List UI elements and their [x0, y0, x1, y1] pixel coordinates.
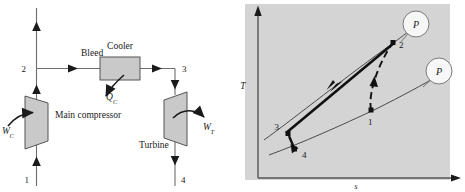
arrowhead-inlet-1 [32, 157, 41, 167]
ts-state-label-1: 1 [368, 117, 373, 127]
y-axis-label: T [240, 81, 246, 91]
figure-screenshot: 2 Bleed Cooler 3 Main compressor Turbine… [0, 0, 465, 192]
marker-point-4 [292, 147, 297, 152]
cooler-heat-subscript: C [113, 98, 118, 105]
state-label-3: 3 [182, 64, 187, 74]
turbine-shape [164, 92, 187, 146]
x-axis-label: s [355, 182, 358, 191]
ts-state-label-3: 3 [275, 122, 280, 132]
x-axis-arrowhead [451, 174, 461, 181]
state-label-4: 4 [181, 175, 186, 185]
arrowhead-compressor-exit [32, 85, 41, 95]
ts-state-label-4: 4 [302, 150, 307, 160]
bleed-label: Bleed [81, 48, 103, 58]
marker-point-2 [391, 40, 396, 45]
state-label-2: 2 [22, 64, 27, 74]
ts-state-label-2: 2 [399, 40, 404, 50]
cooler-label: Cooler [107, 41, 134, 51]
arrowhead-bleed [68, 64, 78, 72]
turbine-label: Turbine [139, 140, 169, 150]
arrowhead-cooler-exit [152, 64, 162, 72]
main-compressor-label: Main compressor [55, 110, 122, 120]
state-label-1: 1 [25, 175, 30, 185]
cycle-schematic-panel: 2 Bleed Cooler 3 Main compressor Turbine… [0, 0, 232, 192]
turbine-work-subscript: T [211, 128, 215, 135]
compressor-work-subscript: C [10, 132, 15, 139]
marker-point-3 [286, 131, 291, 136]
arrowhead-turbine-inlet [171, 80, 180, 90]
arrowhead-outlet-4 [171, 156, 180, 166]
cooler-shape [100, 57, 140, 80]
schematic-svg: 2 Bleed Cooler 3 Main compressor Turbine… [0, 0, 232, 192]
ts-diagram-svg: T s [232, 0, 465, 192]
marker-point-1 [369, 108, 374, 113]
isobar-high-label: P [412, 19, 419, 30]
arrowhead-top-riser [32, 22, 41, 32]
ts-diagram-panel: T s [232, 0, 465, 192]
cooler-heat-label: Q [106, 92, 113, 102]
isobar-low-label: P [435, 66, 442, 77]
main-compressor-shape [25, 96, 48, 149]
